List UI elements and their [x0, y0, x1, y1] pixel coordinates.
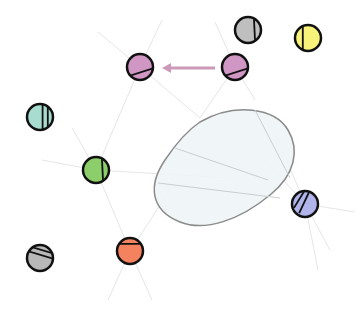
- node-pink-left[interactable]: [127, 54, 153, 80]
- blob-region: [154, 110, 294, 226]
- node-gray-top[interactable]: [235, 17, 261, 43]
- node-gray-bottom[interactable]: [27, 245, 53, 271]
- node-yellow[interactable]: [295, 25, 321, 51]
- node-pink-right[interactable]: [222, 54, 248, 80]
- region-layer: [154, 110, 294, 226]
- node-teal[interactable]: [27, 104, 53, 130]
- network-diagram: [0, 0, 357, 314]
- arrow-head-icon: [162, 63, 171, 73]
- node-blue[interactable]: [292, 191, 318, 217]
- arrow-layer: [162, 63, 215, 73]
- node-orange[interactable]: [117, 238, 143, 264]
- edge-line: [96, 67, 140, 170]
- node-green[interactable]: [83, 157, 109, 183]
- diagram-canvas: [0, 0, 357, 314]
